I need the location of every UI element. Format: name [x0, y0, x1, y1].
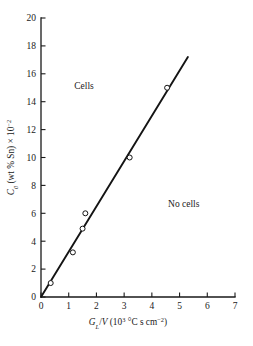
data-point-3 — [83, 211, 88, 216]
y-tick-label-9: 18 — [27, 41, 37, 51]
y-tick-label-6: 12 — [27, 125, 37, 135]
annotation-no-cells: No cells — [168, 199, 200, 209]
region-annotations: CellsNo cells — [74, 81, 200, 209]
data-point-2 — [80, 226, 85, 231]
x-tick-label-7: 7 — [233, 301, 238, 311]
x-tick-label-5: 5 — [177, 301, 182, 311]
x-tick-label-2: 2 — [94, 301, 99, 311]
y-tick-label-1: 2 — [31, 264, 36, 274]
x-tick-label-0: 0 — [39, 301, 44, 311]
y-axis-tick-labels: 02468101214161820 — [27, 13, 37, 302]
chart-figure: 02468101214161820 01234567 CellsNo cells… — [0, 0, 253, 346]
x-tick-label-3: 3 — [122, 301, 127, 311]
data-point-0 — [48, 281, 53, 286]
y-tick-label-7: 14 — [27, 97, 37, 107]
data-point-5 — [165, 85, 170, 90]
y-tick-label-4: 8 — [31, 181, 36, 191]
axes — [41, 18, 235, 297]
y-tick-label-8: 16 — [27, 69, 37, 79]
fit-line — [41, 57, 188, 297]
tick-marks — [41, 18, 235, 297]
y-tick-label-0: 0 — [31, 292, 36, 302]
axis-lines — [41, 18, 235, 297]
x-tick-label-4: 4 — [149, 301, 154, 311]
annotation-cells: Cells — [74, 81, 94, 91]
x-tick-label-1: 1 — [66, 301, 71, 311]
scatter-plot: 02468101214161820 01234567 CellsNo cells… — [0, 0, 253, 346]
y-tick-label-5: 10 — [27, 153, 37, 163]
x-tick-label-6: 6 — [205, 301, 210, 311]
x-axis-tick-labels: 01234567 — [39, 301, 238, 311]
x-axis-title: GL/V (103 °C s cm−2) — [89, 316, 167, 330]
y-axis-title: C0 (wt % Sn) × 10−2 — [5, 120, 19, 195]
data-point-1 — [70, 250, 75, 255]
y-tick-label-2: 4 — [31, 237, 36, 247]
y-tick-label-3: 6 — [31, 209, 36, 219]
y-tick-label-10: 20 — [27, 13, 37, 23]
trend-line — [41, 57, 188, 297]
data-point-4 — [127, 155, 132, 160]
